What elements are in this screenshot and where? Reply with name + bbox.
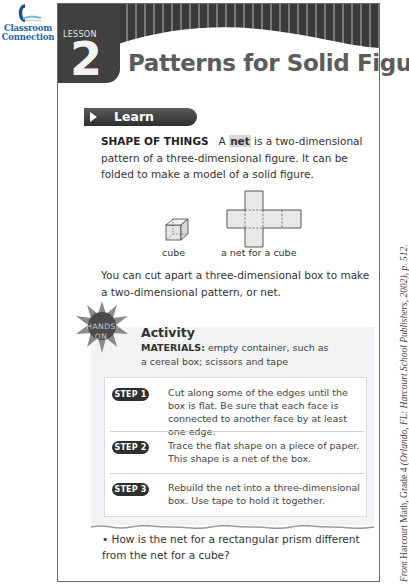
lesson-header: LESSON 2 Patterns for Solid Figures — [58, 4, 379, 84]
box-paragraph: You can cut apart a three-dimensional bo… — [101, 267, 371, 300]
materials-text: MATERIALS: empty container, such as a ce… — [141, 341, 331, 368]
learn-banner: Learn — [84, 108, 197, 126]
net-caption: a net for a cube — [221, 247, 297, 258]
step-badge: STEP 2 — [112, 441, 149, 454]
steps-box: STEP 1 Cut along some of the edges until… — [104, 377, 367, 517]
logo-c-icon — [13, 4, 43, 24]
torn-edge-divider — [91, 525, 374, 529]
materials-label: MATERIALS: — [141, 342, 205, 353]
badge-line1: HANDS — [86, 322, 116, 332]
step-divider — [110, 473, 364, 474]
credit-source: Harcourt Math, Grade 4 — [399, 468, 409, 559]
source-credit: From Harcourt Math, Grade 4 (Orlando, FL… — [399, 244, 409, 582]
logo-line2: Connection — [0, 33, 56, 42]
section-heading: SHAPE OF THINGS — [101, 135, 209, 147]
step-badge: STEP 1 — [112, 388, 149, 401]
step-divider — [110, 431, 364, 432]
step-text: Trace the flat shape on a piece of paper… — [168, 439, 363, 465]
lesson-tab: LESSON 2 — [58, 4, 120, 83]
step-badge: STEP 3 — [112, 483, 149, 496]
credit-prefix: From — [399, 561, 409, 582]
learn-label: Learn — [114, 109, 154, 124]
hands-on-badge-text: HANDS ON — [86, 322, 116, 342]
badge-line2: ON — [86, 332, 116, 342]
activity-title: Activity — [141, 325, 195, 340]
textbook-page: LESSON 2 Patterns for Solid Figures Lear… — [57, 3, 380, 582]
cube-illustration — [164, 217, 190, 243]
intro-pre: A — [219, 135, 226, 147]
discussion-question: • How is the net for a rectangular prism… — [102, 532, 372, 563]
highlighted-term-net: net — [229, 135, 251, 147]
lesson-number: 2 — [70, 37, 102, 81]
intro-paragraph: SHAPE OF THINGS A net is a two-dimension… — [101, 133, 371, 183]
cube-net-illustration — [226, 190, 302, 248]
figure-area: cube a net for a cube — [118, 187, 358, 259]
lesson-title: Patterns for Solid Figures — [128, 50, 409, 76]
cube-caption: cube — [162, 247, 185, 258]
credit-rest: (Orlando, FL: Harcourt School Publishers… — [399, 244, 409, 465]
classroom-connection-logo: Classroom Connection — [0, 4, 56, 42]
step-text: Rebuild the net into a three-dimensional… — [168, 481, 363, 507]
play-arrow-icon — [90, 112, 97, 122]
